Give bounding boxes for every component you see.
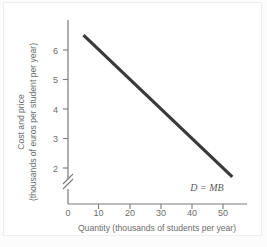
y-tick-label: 4 — [53, 105, 58, 115]
y-axis-label-line2: (thousands of euros per student per year… — [28, 43, 38, 201]
x-axis-label: Quantity (thousands of students per year… — [78, 223, 236, 233]
demand-curve-label: D = MB — [189, 182, 223, 193]
figure-container: Cost and price (thousands of euros per s… — [0, 0, 267, 247]
y-axis-label-line1: Cost and price — [16, 94, 26, 150]
x-tick-label: 0 — [65, 208, 70, 218]
x-tick-group: 0 10 20 30 40 50 — [65, 204, 228, 218]
x-tick-label: 30 — [156, 208, 166, 218]
demand-curve — [84, 35, 233, 177]
y-tick-group: 2 3 4 5 6 — [53, 46, 68, 174]
y-tick-label: 3 — [53, 134, 58, 144]
y-tick-label: 5 — [53, 75, 58, 85]
x-tick-label: 20 — [125, 208, 135, 218]
y-tick-label: 2 — [53, 164, 58, 174]
y-tick-label: 6 — [53, 46, 58, 56]
x-tick-label: 40 — [187, 208, 197, 218]
x-tick-label: 50 — [218, 208, 228, 218]
x-tick-label: 10 — [93, 208, 103, 218]
chart-canvas: Cost and price (thousands of euros per s… — [0, 0, 267, 247]
